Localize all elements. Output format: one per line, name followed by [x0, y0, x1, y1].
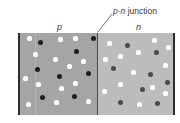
junction-leader-line	[0, 0, 180, 123]
pn-junction-diagram: p n p-n junction	[0, 0, 180, 123]
